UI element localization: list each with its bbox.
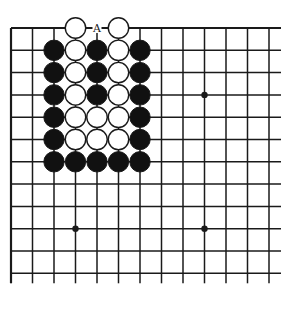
black-stone — [44, 40, 64, 60]
white-stone — [108, 129, 128, 149]
black-stone — [87, 40, 107, 60]
white-stone — [108, 85, 128, 105]
star-point-icon — [72, 226, 78, 232]
white-stone — [87, 129, 107, 149]
white-stone — [65, 62, 85, 82]
black-stone — [87, 62, 107, 82]
black-stone — [130, 40, 150, 60]
black-stone — [130, 129, 150, 149]
black-stone — [44, 152, 64, 172]
star-point-icon — [201, 226, 207, 232]
white-stone — [108, 40, 128, 60]
black-stone — [130, 85, 150, 105]
black-stone — [87, 152, 107, 172]
black-stone — [87, 85, 107, 105]
white-stone — [65, 107, 85, 127]
point-label: A — [92, 22, 102, 35]
go-board: A — [0, 0, 294, 311]
white-stone — [108, 18, 128, 38]
black-stone — [130, 152, 150, 172]
white-stone — [65, 40, 85, 60]
star-point-icon — [201, 92, 207, 98]
white-stone — [108, 107, 128, 127]
white-stone — [87, 107, 107, 127]
black-stone — [44, 62, 64, 82]
black-stone — [130, 107, 150, 127]
black-stone — [108, 152, 128, 172]
white-stone — [65, 18, 85, 38]
stones — [44, 18, 150, 172]
white-stone — [65, 85, 85, 105]
black-stone — [130, 62, 150, 82]
white-stone — [65, 129, 85, 149]
black-stone — [44, 129, 64, 149]
black-stone — [44, 107, 64, 127]
black-stone — [65, 152, 85, 172]
point-labels: A — [92, 20, 102, 35]
black-stone — [44, 85, 64, 105]
white-stone — [108, 62, 128, 82]
